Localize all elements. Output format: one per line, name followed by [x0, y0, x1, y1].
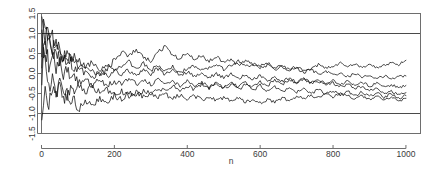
y-tick-label-0: -1.5	[27, 126, 37, 141]
series-path-walk-4	[42, 30, 406, 99]
y-axis: -1.5-1.0-0.50.00.51.01.5	[27, 7, 41, 141]
chart-figure: 02004006008001000 -1.5-1.0-0.50.00.51.01…	[0, 0, 440, 173]
series-paths	[42, 17, 406, 120]
x-axis-title: n	[229, 156, 234, 166]
x-axis-title-text: n	[229, 156, 234, 166]
x-tick-label-4: 800	[326, 149, 340, 159]
series-path-walk-1	[42, 19, 406, 76]
y-tick-label-4: 0.5	[27, 47, 37, 59]
y-tick-label-6: 1.5	[27, 7, 37, 19]
y-tick-label-1: -1.0	[27, 106, 37, 121]
random-walk-plot: 02004006008001000 -1.5-1.0-0.50.00.51.01…	[0, 0, 440, 173]
x-tick-label-5: 1000	[396, 149, 415, 159]
x-tick-label-1: 200	[107, 149, 121, 159]
x-tick-label-0: 0	[39, 149, 44, 159]
x-axis: 02004006008001000	[39, 145, 416, 159]
y-tick-label-2: -0.5	[27, 86, 37, 101]
x-tick-label-2: 400	[180, 149, 194, 159]
series-path-walk-2	[42, 17, 406, 79]
x-tick-label-3: 600	[253, 149, 267, 159]
y-tick-label-5: 1.0	[27, 27, 37, 39]
y-tick-label-3: 0.0	[27, 67, 37, 79]
